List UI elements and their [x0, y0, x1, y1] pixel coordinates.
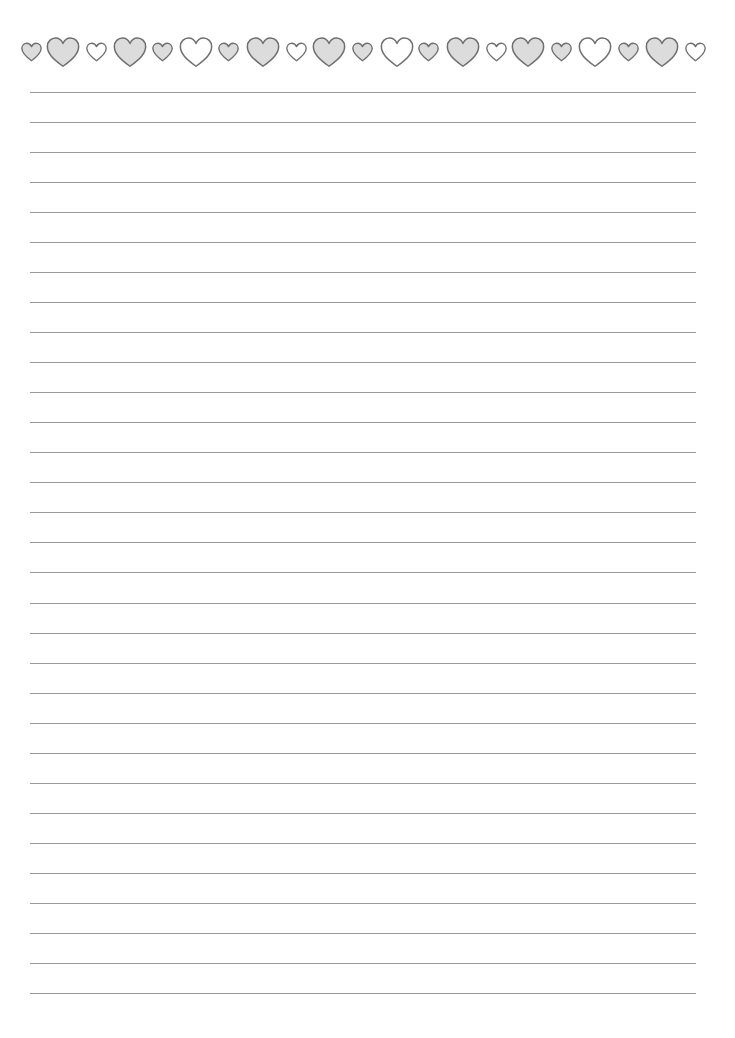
ruled-line [30, 422, 696, 423]
ruled-line [30, 933, 696, 934]
ruled-line [30, 392, 696, 393]
ruled-line [30, 873, 696, 874]
ruled-line [30, 452, 696, 453]
ruled-line [30, 633, 696, 634]
ruled-line [30, 663, 696, 664]
ruled-line [30, 122, 696, 123]
ruled-lines [0, 0, 735, 1038]
ruled-line [30, 693, 696, 694]
ruled-line [30, 843, 696, 844]
ruled-line [30, 272, 696, 273]
ruled-line [30, 783, 696, 784]
ruled-line [30, 542, 696, 543]
ruled-line [30, 993, 696, 994]
ruled-line [30, 242, 696, 243]
lined-paper-page [0, 0, 735, 1038]
ruled-line [30, 963, 696, 964]
ruled-line [30, 753, 696, 754]
ruled-line [30, 212, 696, 213]
ruled-line [30, 512, 696, 513]
ruled-line [30, 813, 696, 814]
ruled-line [30, 603, 696, 604]
ruled-line [30, 572, 696, 573]
ruled-line [30, 723, 696, 724]
ruled-line [30, 302, 696, 303]
ruled-line [30, 152, 696, 153]
ruled-line [30, 362, 696, 363]
ruled-line [30, 903, 696, 904]
ruled-line [30, 92, 696, 93]
ruled-line [30, 182, 696, 183]
ruled-line [30, 482, 696, 483]
ruled-line [30, 332, 696, 333]
